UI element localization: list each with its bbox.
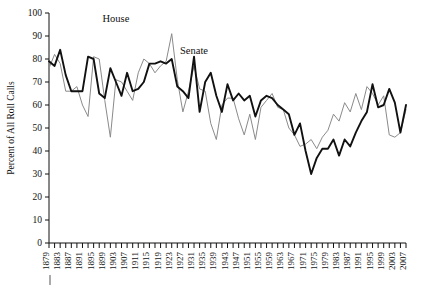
x-axis-tick-label: 1935 <box>197 252 207 271</box>
x-axis-tick-label: 1951 <box>242 252 252 270</box>
x-axis-tick-label: 1987 <box>342 252 352 271</box>
x-axis-tick-label: 1923 <box>164 252 174 271</box>
y-axis-tick-label: 50 <box>33 123 43 133</box>
x-axis-tick-label: 1975 <box>309 252 319 271</box>
y-axis-tick-label: 0 <box>37 238 42 248</box>
x-axis-tick-label: 1915 <box>141 252 151 271</box>
x-axis-tick-label: 1959 <box>264 252 274 271</box>
x-axis-tick-label: 1955 <box>253 252 263 271</box>
chart-canvas: 0102030405060708090100Percent of All Rol… <box>0 0 427 290</box>
x-axis-tick-label: 1887 <box>63 252 73 271</box>
x-axis-tick-label: 1903 <box>108 252 118 271</box>
x-axis-tick-label: 1931 <box>186 252 196 270</box>
x-axis-tick-label: 1995 <box>365 252 375 271</box>
x-axis-tick-label: 1971 <box>298 252 308 270</box>
y-axis-tick-label: 60 <box>33 100 43 110</box>
x-axis-tick-label: 1979 <box>320 252 330 271</box>
x-axis-tick-label: 1919 <box>153 252 163 271</box>
x-axis-tick-label: 1939 <box>208 252 218 271</box>
y-axis-tick-label: 20 <box>33 192 43 202</box>
x-axis-tick-label: 1999 <box>376 252 386 271</box>
x-axis-tick-label: 1879 <box>41 252 51 271</box>
x-axis-tick-label: 1963 <box>275 252 285 271</box>
y-axis-tick-label: 10 <box>33 215 43 225</box>
x-axis-tick-label: 1947 <box>231 252 241 271</box>
series-annotation-senate: Senate <box>180 45 208 56</box>
y-axis-tick-label: 70 <box>33 77 43 87</box>
x-axis-tick-label: 1911 <box>130 252 140 270</box>
y-axis-title: Percent of All Roll Calls <box>6 81 16 175</box>
series-line-house <box>49 34 406 149</box>
series-line-senate <box>49 50 406 174</box>
x-axis-tick-label: 2007 <box>398 252 408 271</box>
x-axis-tick-label: 2003 <box>387 252 397 271</box>
series-annotation-house: House <box>103 13 130 24</box>
x-axis-tick-label: 1943 <box>220 252 230 271</box>
y-axis-tick-label: 80 <box>33 54 43 64</box>
y-axis-tick-label: 40 <box>33 146 43 156</box>
x-axis-tick-label: 1907 <box>119 252 129 271</box>
x-axis-tick-label: 1895 <box>86 252 96 271</box>
x-axis-tick-label: 1891 <box>74 252 84 270</box>
x-axis-tick-label: 1899 <box>97 252 107 271</box>
x-axis-tick-label: 1883 <box>52 252 62 271</box>
x-axis-tick-label: 1927 <box>175 252 185 271</box>
y-axis-tick-label: 100 <box>28 8 43 18</box>
y-axis-tick-label: 30 <box>33 169 43 179</box>
x-axis-tick-label: 1983 <box>331 252 341 271</box>
x-axis-tick-label: 1967 <box>286 252 296 271</box>
x-axis-tick-label: 1991 <box>353 252 363 270</box>
roll-call-line-chart: 0102030405060708090100Percent of All Rol… <box>0 0 427 290</box>
y-axis-tick-label: 90 <box>33 31 43 41</box>
